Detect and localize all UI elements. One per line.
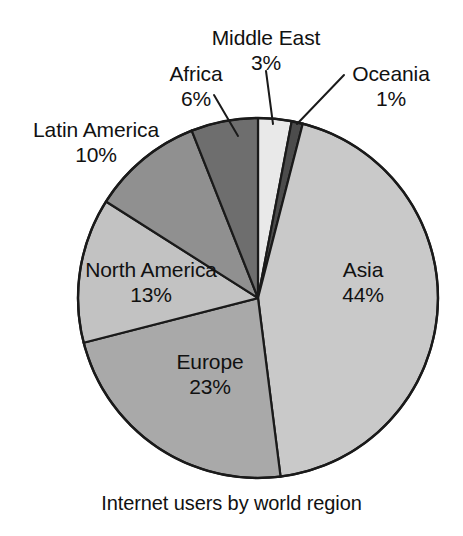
slice-label-oceania: Oceania 1%	[330, 62, 452, 112]
slice-label-africa: Africa 6%	[146, 62, 246, 112]
slice-label-asia-name: Asia	[318, 258, 408, 283]
slice-label-north-america-value: 13%	[72, 283, 230, 308]
slice-label-oceania-value: 1%	[330, 87, 452, 112]
slice-label-north-america: North America 13%	[72, 258, 230, 308]
chart-caption: Internet users by world region	[0, 492, 463, 515]
slice-label-africa-name: Africa	[146, 62, 246, 87]
slice-label-middle-east-name: Middle East	[196, 26, 336, 51]
pie-chart-figure: Middle East 3% Oceania 1% Africa 6% Lati…	[0, 0, 463, 536]
slice-label-north-america-name: North America	[72, 258, 230, 283]
slice-label-europe-value: 23%	[150, 375, 270, 400]
slice-label-latin-america-name: Latin America	[8, 118, 184, 143]
slice-label-europe: Europe 23%	[150, 350, 270, 400]
leader-line-middle-east	[266, 71, 273, 124]
slice-label-latin-america-value: 10%	[8, 143, 184, 168]
slice-label-europe-name: Europe	[150, 350, 270, 375]
slice-label-asia: Asia 44%	[318, 258, 408, 308]
slice-label-africa-value: 6%	[146, 87, 246, 112]
slice-label-asia-value: 44%	[318, 283, 408, 308]
slice-label-latin-america: Latin America 10%	[8, 118, 184, 168]
slice-label-oceania-name: Oceania	[330, 62, 452, 87]
